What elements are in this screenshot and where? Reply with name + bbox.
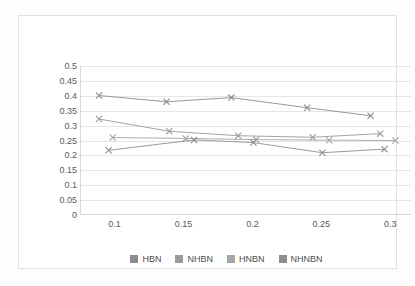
- plot-area: [80, 66, 411, 215]
- legend-label: NHBN: [187, 254, 213, 264]
- series-layer: [81, 66, 412, 215]
- y-axis-tick-label: 0.3: [37, 121, 77, 131]
- y-axis-tick-labels: 00.050.10.150.20.250.30.350.40.450.5: [37, 60, 77, 222]
- y-axis-tick-label: 0.05: [37, 195, 77, 205]
- y-axis-tick-label: 0.25: [37, 136, 77, 146]
- y-axis-tick-label: 0.1: [37, 180, 77, 190]
- x-axis-tick-label: 0.3: [370, 219, 410, 230]
- legend-label: HBN: [142, 254, 161, 264]
- series-line: [109, 140, 385, 153]
- series-line: [99, 96, 371, 116]
- legend-swatch-icon: [279, 255, 287, 263]
- legend-swatch-icon: [175, 255, 183, 263]
- chart-screenshot: 00.050.10.150.20.250.30.350.40.450.5 0.1…: [0, 0, 415, 286]
- y-axis-tick-label: 0.45: [37, 76, 77, 86]
- legend-item-hnbn[interactable]: HNBN: [227, 254, 265, 264]
- x-axis-tick-label: 0.25: [301, 219, 341, 230]
- y-axis-tick-label: 0.35: [37, 106, 77, 116]
- y-axis-tick-label: 0.15: [37, 165, 77, 175]
- legend-item-nhbn[interactable]: NHBN: [175, 254, 213, 264]
- chart-container: 00.050.10.150.20.250.30.350.40.450.5 0.1…: [18, 15, 397, 269]
- legend-label: HNBN: [239, 254, 265, 264]
- x-axis-tick-label: 0.15: [163, 219, 203, 230]
- series-hbn: [96, 92, 374, 118]
- x-axis-tick-label: 0.1: [94, 219, 134, 230]
- x-axis-tick-label: 0.2: [232, 219, 272, 230]
- series-nhbn: [96, 116, 384, 140]
- y-axis-tick-label: 0.5: [37, 61, 77, 71]
- chart-legend: HBNNHBNHNBNNHNBN: [37, 254, 415, 264]
- x-axis-tick-labels: 0.10.150.20.250.3: [80, 219, 411, 235]
- legend-swatch-icon: [227, 255, 235, 263]
- y-axis-tick-label: 0.2: [37, 150, 77, 160]
- y-axis-tick-label: 0.4: [37, 91, 77, 101]
- legend-item-hbn[interactable]: HBN: [130, 254, 161, 264]
- legend-label: NHNBN: [291, 254, 323, 264]
- legend-swatch-icon: [130, 255, 138, 263]
- y-axis-tick-label: 0: [37, 210, 77, 220]
- legend-item-nhnbn[interactable]: NHNBN: [279, 254, 323, 264]
